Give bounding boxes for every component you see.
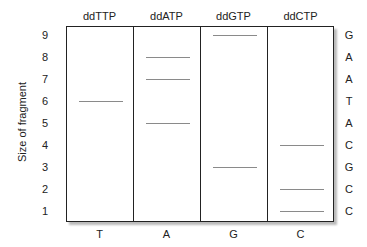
size-tick-3: 3 (38, 161, 52, 173)
lane-footer-a: A (133, 228, 200, 240)
sequence-base-1: C (342, 205, 356, 217)
sequence-base-2: C (342, 183, 356, 195)
sequence-base-7: A (342, 73, 356, 85)
size-tick-5: 5 (38, 117, 52, 129)
y-axis-label: Size of fragment (16, 82, 28, 162)
lane-divider (267, 27, 268, 221)
lane-header-ddctp: ddCTP (267, 10, 334, 22)
lane-header-ddgtp: ddGTP (200, 10, 267, 22)
size-tick-1: 1 (38, 205, 52, 217)
lane-divider (200, 27, 201, 221)
band-a-8 (146, 57, 190, 58)
lane-footer-g: G (200, 228, 267, 240)
sequence-base-3: G (342, 161, 356, 173)
band-c-1 (280, 211, 324, 212)
band-a-5 (146, 123, 190, 124)
lane-header-ddttp: ddTTP (66, 10, 133, 22)
band-a-7 (146, 79, 190, 80)
size-tick-8: 8 (38, 51, 52, 63)
size-tick-9: 9 (38, 29, 52, 41)
band-t-6 (79, 101, 123, 102)
lane-footer-t: T (66, 228, 133, 240)
size-tick-6: 6 (38, 95, 52, 107)
lane-divider (133, 27, 134, 221)
size-tick-4: 4 (38, 139, 52, 151)
band-g-9 (213, 35, 257, 36)
sequence-base-4: C (342, 139, 356, 151)
band-g-3 (213, 167, 257, 168)
sequence-base-9: G (342, 29, 356, 41)
lane-header-ddatp: ddATP (133, 10, 200, 22)
gel (66, 26, 334, 222)
sequence-base-6: T (342, 95, 356, 107)
band-c-2 (280, 189, 324, 190)
size-tick-2: 2 (38, 183, 52, 195)
lane-footer-c: C (267, 228, 334, 240)
band-c-4 (280, 145, 324, 146)
size-tick-7: 7 (38, 73, 52, 85)
sequence-base-8: A (342, 51, 356, 63)
sequence-base-5: A (342, 117, 356, 129)
